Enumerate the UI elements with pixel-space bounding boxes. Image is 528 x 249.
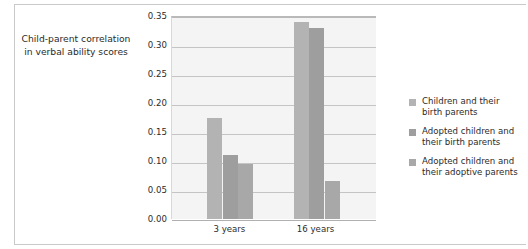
bar bbox=[207, 118, 222, 220]
legend-item[interactable]: Children and theirbirth parents bbox=[409, 96, 525, 119]
legend-label-line: Adopted children and bbox=[422, 126, 514, 137]
x-axis-tick-label: 3 years bbox=[213, 224, 245, 234]
plot-inner bbox=[172, 18, 376, 219]
legend-swatch-icon bbox=[409, 159, 416, 166]
bar bbox=[238, 164, 253, 219]
legend-label: Adopted children andtheir birth parents bbox=[422, 126, 514, 149]
legend-swatch-icon bbox=[409, 99, 416, 106]
y-axis-tick-label: 0.10 bbox=[135, 156, 167, 166]
gridline bbox=[172, 105, 376, 106]
y-axis-tick-label: 0.30 bbox=[135, 40, 167, 50]
legend-label: Adopted children andtheir adoptive paren… bbox=[422, 156, 518, 179]
bar bbox=[223, 155, 238, 219]
x-axis-line bbox=[172, 220, 376, 221]
bar bbox=[325, 181, 340, 219]
legend-label-line: birth parents bbox=[422, 107, 499, 118]
y-axis-tick-label: 0.35 bbox=[135, 11, 167, 21]
gridline bbox=[172, 163, 376, 164]
legend-item[interactable]: Adopted children andtheir birth parents bbox=[409, 126, 525, 149]
legend-label-line: Children and their bbox=[422, 96, 499, 107]
chart-figure: Child-parent correlation in verbal abili… bbox=[0, 0, 528, 249]
gridline bbox=[172, 47, 376, 48]
bar bbox=[309, 28, 324, 219]
y-axis-tick-label: 0.05 bbox=[135, 185, 167, 195]
legend-swatch-icon bbox=[409, 129, 416, 136]
legend-label-line: their adoptive parents bbox=[422, 167, 518, 178]
y-axis-tick-label: 0.15 bbox=[135, 127, 167, 137]
gridline bbox=[172, 134, 376, 135]
chart-legend: Children and theirbirth parentsAdopted c… bbox=[409, 96, 525, 185]
legend-label: Children and theirbirth parents bbox=[422, 96, 499, 119]
y-axis-tick-label: 0.25 bbox=[135, 69, 167, 79]
x-axis-tick-label: 16 years bbox=[297, 224, 334, 234]
plot-area bbox=[171, 16, 376, 219]
legend-item[interactable]: Adopted children andtheir adoptive paren… bbox=[409, 156, 525, 179]
bar bbox=[294, 22, 309, 219]
x-axis-tick-labels: 3 years16 years bbox=[171, 224, 376, 240]
y-axis-tick-label: 0.00 bbox=[135, 214, 167, 224]
gridline bbox=[172, 76, 376, 77]
y-axis-tick-label: 0.20 bbox=[135, 98, 167, 108]
y-axis-title: Child-parent correlation in verbal abili… bbox=[18, 33, 134, 58]
y-axis-tick-labels: 0.000.050.100.150.200.250.300.35 bbox=[131, 16, 167, 219]
gridline bbox=[172, 192, 376, 193]
legend-label-line: Adopted children and bbox=[422, 156, 518, 167]
y-axis-title-line-2: in verbal ability scores bbox=[18, 46, 134, 59]
y-axis-title-line-1: Child-parent correlation bbox=[18, 33, 134, 46]
legend-label-line: their birth parents bbox=[422, 137, 514, 148]
